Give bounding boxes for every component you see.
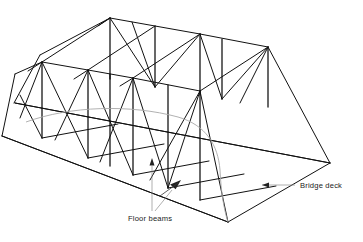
truss-bridge-figure: Bridge deck Floor beams: [0, 0, 363, 242]
bridge-deck-annotation: Bridge deck: [262, 181, 342, 190]
far-truss-right-endpost: [268, 47, 330, 163]
far-truss-top-chord: [40, 18, 268, 55]
top-lateral-bracing: [28, 18, 268, 91]
near-truss-verticals: [42, 62, 200, 200]
deck-cutaway-break-curve: [26, 108, 228, 222]
diagram-svg: Bridge deck Floor beams: [0, 0, 363, 242]
far-truss-left-endpost: [14, 55, 40, 103]
near-truss-right-endpost: [200, 91, 228, 222]
near-truss-left-endpost: [2, 74, 15, 136]
floor-beams-label: Floor beams: [128, 214, 172, 223]
bridge-deck: [2, 103, 330, 222]
bridge-deck-label: Bridge deck: [300, 181, 342, 190]
far-truss-diagonals: [110, 18, 268, 103]
